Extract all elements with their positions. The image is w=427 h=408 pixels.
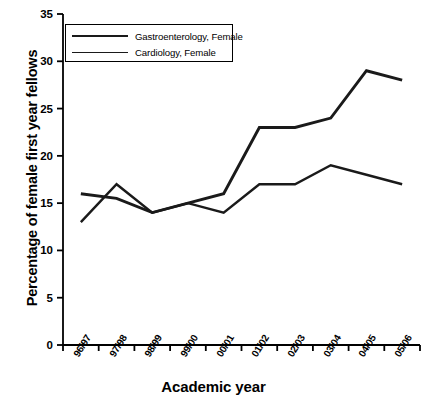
legend: Gastroenterology, Female Cardiology, Fem… <box>65 24 233 62</box>
legend-item-cardiology: Cardiology, Female <box>72 45 216 59</box>
legend-line-swatch-gastroenterology <box>72 35 128 37</box>
axes-lines <box>57 14 420 351</box>
chart-container: Percentage of female first year fellows … <box>0 0 427 408</box>
legend-item-gastroenterology: Gastroenterology, Female <box>72 29 243 43</box>
legend-label-cardiology: Cardiology, Female <box>135 47 216 58</box>
series-line-cardiology <box>81 165 402 222</box>
legend-line-swatch-cardiology <box>72 52 128 53</box>
data-series-group <box>81 71 402 222</box>
legend-label-gastroenterology: Gastroenterology, Female <box>135 31 243 42</box>
series-line-gastroenterology <box>81 71 402 213</box>
